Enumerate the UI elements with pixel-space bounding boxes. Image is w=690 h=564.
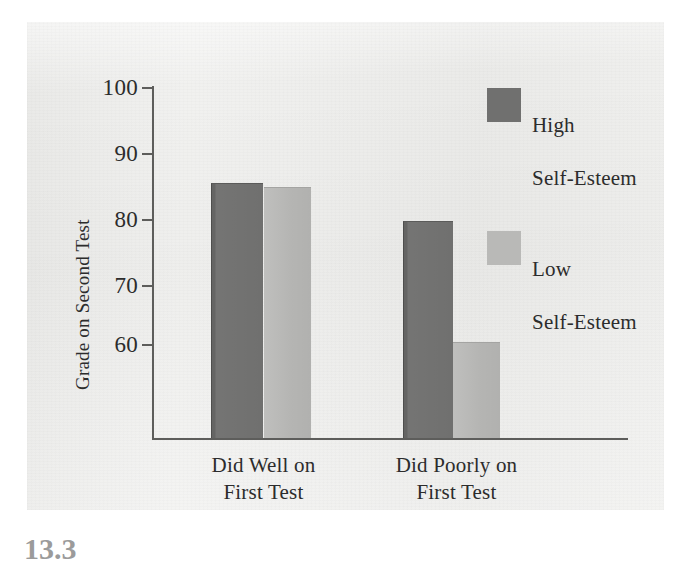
y-tick-90 (142, 153, 153, 155)
legend-item-low-self-esteem: Low Self-Esteem (487, 229, 662, 361)
y-tick-100 (142, 87, 153, 89)
x-category-label-did-well-line1: Did Well on (186, 452, 341, 479)
legend-swatch-low-self-esteem (487, 231, 521, 265)
figure-container: 100 90 80 70 60 Grade on Second Test Did… (0, 0, 690, 564)
legend-label-low-self-esteem: Low Self-Esteem (532, 229, 637, 361)
x-category-label-did-well-line2: First Test (186, 479, 341, 506)
y-axis-line (152, 86, 154, 440)
legend-label-low-self-esteem-line2: Self-Esteem (532, 309, 637, 335)
legend-label-high-self-esteem-line2: Self-Esteem (532, 165, 637, 191)
y-tick-label-100-wrap: 100 (84, 75, 138, 99)
y-tick-60 (142, 344, 153, 346)
y-axis-title: Grade on Second Test (72, 120, 96, 390)
figure-caption-number: 13.3 (24, 540, 144, 564)
y-tick-80 (142, 219, 153, 221)
y-tick-label-100: 100 (84, 75, 138, 101)
bar-high-self-esteem-did-poorly (403, 221, 453, 438)
x-axis-line (152, 438, 628, 440)
x-category-label-did-well: Did Well on First Test (186, 452, 341, 507)
bar-chart-plot-area: 100 90 80 70 60 Grade on Second Test Did… (0, 0, 690, 564)
y-tick-70 (142, 285, 153, 287)
figure-caption-partial: 13.3 (24, 540, 144, 564)
legend-label-high-self-esteem-line1: High (532, 112, 637, 138)
legend-label-high-self-esteem: High Self-Esteem (532, 86, 637, 218)
bar-low-self-esteem-did-well (264, 187, 311, 438)
legend-item-high-self-esteem: High Self-Esteem (487, 86, 662, 218)
legend-label-low-self-esteem-line1: Low (532, 256, 637, 282)
x-category-label-did-poorly-line1: Did Poorly on (374, 452, 539, 479)
x-category-label-did-poorly: Did Poorly on First Test (374, 452, 539, 507)
bar-high-self-esteem-did-well (211, 183, 263, 438)
chart-legend: High Self-Esteem Low Self-Esteem (487, 86, 662, 373)
x-category-label-did-poorly-line2: First Test (374, 479, 539, 506)
legend-swatch-high-self-esteem (487, 88, 521, 122)
